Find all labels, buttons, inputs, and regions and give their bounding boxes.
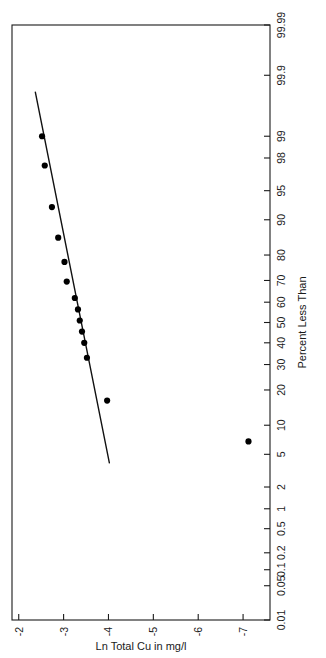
x-tick-label: 95	[275, 185, 287, 197]
plot-canvas: 0.010.050.10.20.512510203040506070809095…	[0, 0, 326, 658]
y-tick-label: -5	[147, 627, 159, 636]
x-tick-label: 60	[275, 296, 287, 308]
x-tick-label: 0.01	[275, 610, 287, 631]
y-tick-label: -2	[13, 627, 25, 636]
x-tick-label: 1	[275, 506, 287, 512]
x-tick-label: 99	[275, 130, 287, 142]
x-tick-label: 20	[275, 384, 287, 396]
x-tick-label: 2	[275, 484, 287, 490]
data-point	[245, 438, 251, 444]
x-tick-label: 30	[275, 359, 287, 371]
figure-root: 0.010.050.10.20.512510203040506070809095…	[0, 0, 326, 658]
x-tick-label: 90	[275, 214, 287, 226]
x-tick-label: 80	[275, 249, 287, 261]
data-point	[79, 328, 85, 334]
x-tick-label: 0.05	[275, 575, 287, 596]
y-axis-title: Ln Total Cu in mg/l	[96, 640, 187, 652]
rotated-chart-wrapper: 0.010.050.10.20.512510203040506070809095…	[0, 0, 326, 658]
x-tick-label: 40	[275, 337, 287, 349]
x-tick-label: 70	[275, 274, 287, 286]
probability-plot-svg: 0.010.050.10.20.512510203040506070809095…	[0, 0, 326, 658]
x-axis-ticks	[264, 25, 270, 620]
x-tick-label: 99.99	[275, 12, 287, 38]
data-point	[64, 279, 70, 285]
x-tick-label: 10	[275, 419, 287, 431]
data-point	[75, 306, 81, 312]
data-point	[104, 397, 110, 403]
y-tick-label: -6	[192, 627, 204, 636]
data-point	[84, 355, 90, 361]
data-point	[77, 317, 83, 323]
x-axis-tick-labels: 0.010.050.10.20.512510203040506070809095…	[275, 12, 287, 631]
data-point	[42, 162, 48, 168]
x-tick-label: 0.5	[275, 521, 287, 536]
x-tick-label: 99.9	[275, 65, 287, 86]
y-axis-ticks	[19, 614, 243, 620]
data-point	[81, 340, 87, 346]
x-tick-label: 98	[275, 152, 287, 164]
x-tick-label: 0.1	[275, 562, 287, 577]
x-tick-label: 5	[275, 451, 287, 457]
data-point	[55, 235, 61, 241]
data-points	[39, 133, 252, 444]
plot-frame-rect	[12, 25, 270, 620]
x-tick-label: 0.2	[275, 545, 287, 560]
fit-line	[35, 92, 109, 463]
fit-line-segment	[35, 92, 109, 463]
x-tick-label: 50	[275, 317, 287, 329]
y-tick-label: -7	[237, 627, 249, 636]
plot-frame	[12, 25, 270, 620]
y-tick-label: -3	[58, 627, 70, 636]
y-tick-label: -4	[102, 627, 114, 636]
data-point	[61, 259, 67, 265]
data-point	[72, 295, 78, 301]
y-axis-tick-labels: -2-3-4-5-6-7	[13, 627, 249, 636]
x-axis-title: Percent Less Than	[296, 276, 308, 368]
data-point	[39, 133, 45, 139]
data-point	[49, 204, 55, 210]
